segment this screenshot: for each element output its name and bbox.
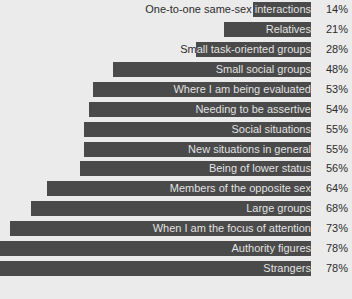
category-label: When I am the focus of attention	[153, 219, 311, 238]
bar-row: Authority figuresAuthority figures78%	[0, 239, 352, 259]
value-label: 48%	[315, 60, 348, 79]
value-label: 55%	[315, 120, 348, 139]
value-label: 68%	[315, 199, 348, 218]
value-label: 55%	[315, 140, 348, 159]
category-label: Being of lower status	[209, 159, 311, 178]
bar-row: Small task-oriented groupsSmall task-ori…	[0, 40, 352, 60]
horizontal-bar-chart: One-to-one same-sex interactionsOne-to-o…	[0, 0, 352, 299]
bar-row: Needing to be assertiveNeeding to be ass…	[0, 100, 352, 120]
bar-row: Social situationsSocial situations55%	[0, 120, 352, 140]
value-label: 78%	[315, 239, 348, 258]
category-label: Where I am being evaluated	[173, 80, 311, 99]
category-label: Small social groups	[216, 60, 311, 79]
bar-row: Members of the opposite sexMembers of th…	[0, 179, 352, 199]
bar-row: Where I am being evaluatedWhere I am bei…	[0, 80, 352, 100]
bar-row: One-to-one same-sex interactionsOne-to-o…	[0, 0, 352, 20]
category-label: Relatives	[266, 20, 311, 39]
value-label: 54%	[315, 100, 348, 119]
value-label: 64%	[315, 179, 348, 198]
category-label: New situations in general	[188, 140, 311, 159]
category-label: Small task-oriented groups	[180, 40, 311, 59]
value-label: 21%	[315, 20, 348, 39]
category-label: Large groups	[246, 199, 311, 218]
value-label: 28%	[315, 40, 348, 59]
value-label: 53%	[315, 80, 348, 99]
bar-row: StrangersStrangers78%	[0, 259, 352, 279]
category-label: Strangers	[263, 259, 311, 278]
value-label: 73%	[315, 219, 348, 238]
value-label: 78%	[315, 259, 348, 278]
bar-row: Being of lower statusBeing of lower stat…	[0, 159, 352, 179]
value-label: 56%	[315, 159, 348, 178]
category-label: Members of the opposite sex	[170, 179, 311, 198]
bar-row: Large groupsLarge groups68%	[0, 199, 352, 219]
bar-row: RelativesRelatives21%	[0, 20, 352, 40]
bar-row: New situations in generalNew situations …	[0, 140, 352, 160]
category-label: Social situations	[232, 120, 312, 139]
value-label: 14%	[315, 0, 348, 19]
category-label: One-to-one same-sex interactions	[145, 0, 311, 19]
bar-row: Small social groupsSmall social groups48…	[0, 60, 352, 80]
category-label: Authority figures	[232, 239, 311, 258]
category-label: Needing to be assertive	[195, 100, 311, 119]
bar-row: When I am the focus of attentionWhen I a…	[0, 219, 352, 239]
